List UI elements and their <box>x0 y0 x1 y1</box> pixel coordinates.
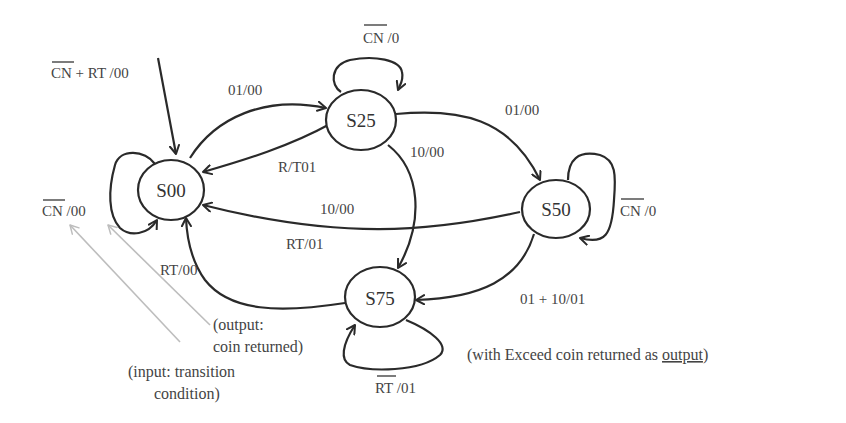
s25-self-loop-label: CN /0 <box>363 25 399 46</box>
s50-to-s75-arrow <box>416 234 534 300</box>
state-label: S25 <box>346 110 376 131</box>
input-annotation-line2: condition) <box>154 385 220 403</box>
s50-self-loop-label: CN /0 <box>620 199 656 219</box>
state-s50: S50 <box>522 180 590 238</box>
s75-self-loop-arrow <box>344 320 443 369</box>
s25-self-loop-arrow <box>334 58 403 92</box>
s25-to-s75-arrow <box>388 145 415 268</box>
svg-text:CN /0: CN /0 <box>620 203 656 219</box>
svg-text:CN + RT /00: CN + RT /00 <box>51 65 129 81</box>
s50-to-s75-label: 01 + 10/01 <box>520 291 585 307</box>
s00-self-loop-label: CN /00 <box>42 200 86 219</box>
state-label: S00 <box>156 180 186 201</box>
s25-to-s00-label: R/T01 <box>278 159 316 175</box>
input-annotation-line1: (input: transition <box>128 363 235 381</box>
caption: (with Exceed coin returned as output) <box>467 346 708 364</box>
s75-to-s00-label: RT/00 <box>160 262 197 278</box>
state-s75: S75 <box>345 267 415 327</box>
s25-to-s75-label: 10/00 <box>410 144 444 160</box>
state-s00: S00 <box>138 160 204 220</box>
s50-to-s00-arrow <box>203 205 520 229</box>
state-label: S50 <box>541 199 571 220</box>
s50-to-s00-label-input: 10/00 <box>320 201 354 217</box>
state-s25: S25 <box>326 90 396 150</box>
s00-to-s25-arrow <box>190 104 326 158</box>
s75-self-loop-label: RT /01 <box>375 376 416 396</box>
state-diagram: S00 S25 S50 S75 CN + RT /00 CN /00 01/00… <box>0 0 846 423</box>
s25-to-s50-label: 01/00 <box>505 102 539 118</box>
initial-transition-arrow <box>158 58 176 154</box>
output-annotation-line1: (output: <box>213 316 264 334</box>
s00-to-s25-label: 01/00 <box>228 82 262 98</box>
svg-text:CN /0: CN /0 <box>363 30 399 46</box>
output-annotation-line2: coin returned) <box>213 338 303 356</box>
state-label: S75 <box>365 288 395 309</box>
s75-to-s00-arrow <box>186 218 345 309</box>
s50-to-s00-label-output: RT/01 <box>286 236 323 252</box>
initial-transition-label: CN + RT /00 <box>51 62 129 81</box>
svg-text:CN /00: CN /00 <box>42 203 86 219</box>
svg-text:RT /01: RT /01 <box>375 380 416 396</box>
